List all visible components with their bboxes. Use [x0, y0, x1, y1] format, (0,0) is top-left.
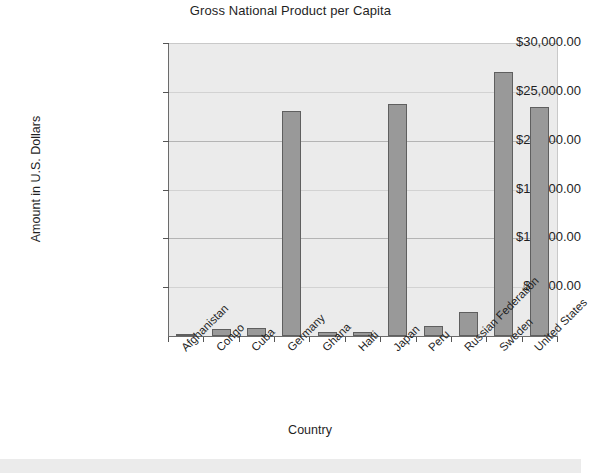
bar — [388, 104, 407, 336]
x-axis-tick — [239, 337, 240, 342]
x-axis-tick — [168, 337, 169, 342]
x-axis-tick — [522, 337, 523, 342]
y-axis-tick — [163, 287, 169, 288]
x-axis-title: Country — [230, 423, 390, 437]
y-axis-tick — [163, 43, 169, 44]
x-axis-tick — [274, 337, 275, 342]
x-axis-tick — [345, 337, 346, 342]
bar — [530, 107, 549, 336]
bar — [282, 111, 301, 336]
y-axis-tick — [163, 141, 169, 142]
x-axis-tick — [416, 337, 417, 342]
x-axis-tick — [557, 337, 558, 342]
y-axis-title: Amount in U.S. Dollars — [29, 79, 43, 279]
bottom-strip — [0, 459, 581, 473]
x-axis-tick — [451, 337, 452, 342]
chart-title: Gross National Product per Capita — [0, 3, 581, 18]
y-axis-tick-label: $30,000.00 — [419, 34, 581, 49]
y-axis-tick — [163, 190, 169, 191]
y-axis-tick — [163, 238, 169, 239]
y-axis-tick — [163, 92, 169, 93]
